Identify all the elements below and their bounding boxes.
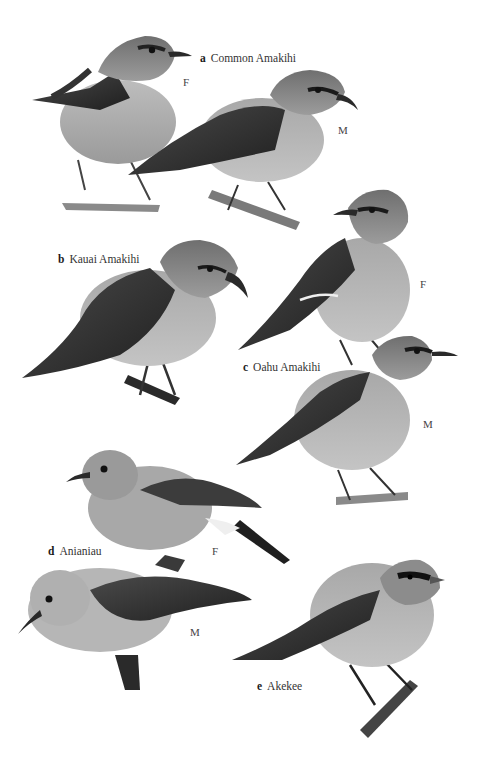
species-label-c: cOahu Amakihi — [243, 361, 321, 373]
bird-illustrations — [0, 0, 485, 757]
sex-label-female: F — [212, 545, 218, 557]
species-letter: b — [58, 253, 64, 265]
bird-akekee — [232, 560, 445, 738]
species-letter: a — [200, 52, 206, 64]
species-label-e: eAkekee — [257, 680, 302, 692]
species-letter: d — [48, 545, 54, 557]
bird-plate: aCommon Amakihi F M bKauai Amakihi cOahu… — [0, 0, 485, 757]
species-label-b: bKauai Amakihi — [58, 253, 139, 265]
bird-anianiau-male — [18, 568, 252, 690]
sex-label-male: M — [190, 626, 200, 638]
species-name: Anianiau — [59, 545, 101, 557]
species-letter: c — [243, 361, 248, 373]
species-name: Akekee — [267, 680, 302, 692]
species-label-d: dAnianiau — [48, 545, 102, 557]
bird-common-amakihi-male — [128, 70, 358, 230]
species-label-a: aCommon Amakihi — [200, 52, 296, 64]
species-name: Common Amakihi — [211, 52, 296, 64]
species-letter: e — [257, 680, 262, 692]
species-name: Kauai Amakihi — [69, 253, 139, 265]
species-name: Oahu Amakihi — [253, 361, 320, 373]
bird-common-amakihi-female — [32, 36, 192, 212]
sex-label-male: M — [423, 418, 433, 430]
sex-label-female: F — [420, 278, 426, 290]
sex-label-female: F — [183, 76, 189, 88]
sex-label-male: M — [338, 124, 348, 136]
